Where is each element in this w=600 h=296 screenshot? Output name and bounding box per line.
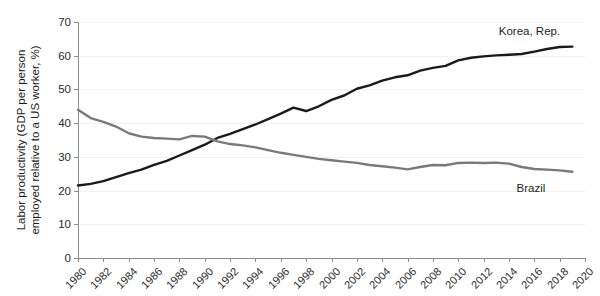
series-line bbox=[78, 47, 572, 186]
series-label: Korea, Rep. bbox=[499, 25, 560, 37]
series-label: Brazil bbox=[517, 182, 546, 194]
plot-area bbox=[0, 0, 600, 296]
series-line bbox=[78, 110, 572, 172]
line-chart: Labor productivity (GDP per person emplo… bbox=[0, 0, 600, 296]
